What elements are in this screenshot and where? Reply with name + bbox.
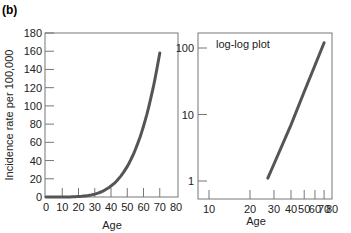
linear-chart: 020406080100120140160180 010203040506070… [3, 27, 182, 231]
x-tick-label: 80 [170, 201, 182, 213]
loglog-incidence-curve [268, 43, 324, 179]
linear-y-axis: 020406080100120140160180 [24, 27, 54, 203]
x-tick-label: 10 [56, 201, 68, 213]
loglog-y-axis: 110100 [176, 42, 207, 187]
x-tick-label: 40 [105, 201, 117, 213]
x-tick-label: 30 [268, 203, 280, 215]
x-tick-label: 70 [154, 201, 166, 213]
loglog-x-axis: 1020304050607080 [203, 190, 338, 215]
linear-x-axis: 01020304050607080 [43, 188, 182, 213]
linear-incidence-curve [46, 53, 160, 197]
y-tick-label: 100 [24, 100, 42, 112]
panel-label: (b) [2, 3, 17, 17]
y-tick-label: 120 [24, 82, 42, 94]
y-tick-label: 20 [30, 173, 42, 185]
y-tick-label: 1 [188, 175, 194, 187]
y-tick-label: 100 [176, 42, 194, 54]
loglog-chart: log-log plot 110100 1020304050607080 Age [176, 33, 338, 227]
x-tick-label: 10 [203, 203, 215, 215]
y-tick-label: 80 [30, 118, 42, 130]
x-tick-label: 0 [43, 201, 49, 213]
y-tick-label: 180 [24, 27, 42, 39]
loglog-plot-frame [198, 33, 332, 199]
y-tick-label: 160 [24, 45, 42, 57]
x-tick-label: 40 [285, 203, 297, 215]
linear-y-axis-title: Incidence rate per 100,000 [3, 50, 15, 181]
x-tick-label: 50 [121, 201, 133, 213]
y-tick-label: 40 [30, 155, 42, 167]
loglog-x-axis-title: Age [246, 215, 266, 227]
linear-x-axis-title: Age [102, 219, 122, 231]
x-tick-label: 20 [244, 203, 256, 215]
x-tick-label: 60 [137, 201, 149, 213]
x-tick-label: 80 [326, 203, 338, 215]
y-tick-label: 60 [30, 136, 42, 148]
y-tick-label: 10 [182, 109, 194, 121]
y-tick-label: 0 [36, 191, 42, 203]
loglog-annotation: log-log plot [216, 38, 270, 50]
x-tick-label: 30 [89, 201, 101, 213]
x-tick-label: 20 [72, 201, 84, 213]
figure: (b) 020406080100120140160180 01020304050… [0, 0, 351, 233]
y-tick-label: 140 [24, 63, 42, 75]
